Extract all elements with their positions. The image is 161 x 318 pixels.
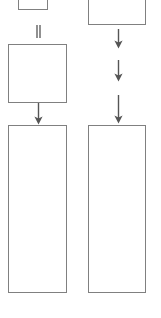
connector-top-left-stub: [35, 25, 42, 38]
process-box-left-upper[interactable]: [8, 44, 67, 103]
cut-off-box-top-left[interactable]: [18, 0, 48, 10]
process-box-left-upper-label: [9, 45, 66, 49]
process-box-right-lower-label: [89, 126, 145, 130]
connector-top-left-stub-glyph: [35, 25, 42, 38]
connector-right-third: [113, 95, 124, 124]
down-arrow-icon: [113, 29, 124, 49]
connector-right-first: [113, 29, 124, 49]
down-arrow-icon: [113, 95, 124, 124]
connector-right-second: [113, 60, 124, 82]
process-box-left-lower[interactable]: [8, 125, 67, 293]
connector-left-square-to-tall: [33, 103, 44, 125]
down-arrow-icon: [33, 103, 44, 125]
diagram-canvas: [0, 0, 161, 318]
down-arrow-icon: [113, 60, 124, 82]
process-box-left-lower-label: [9, 126, 66, 130]
process-box-right-lower[interactable]: [88, 125, 146, 293]
cut-off-box-top-right[interactable]: [88, 0, 146, 25]
